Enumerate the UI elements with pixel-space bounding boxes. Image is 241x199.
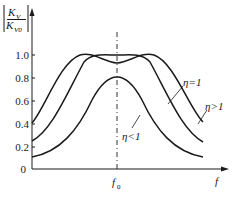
ylabel-den: K bbox=[5, 19, 14, 31]
label-eta-greater-1: η>1 bbox=[205, 100, 223, 112]
label-eta-equal-1: η=1 bbox=[183, 76, 201, 88]
ylabel-num: K bbox=[7, 6, 16, 18]
x-labels: f 0 f bbox=[112, 175, 220, 191]
svg-text:0.2: 0.2 bbox=[15, 141, 29, 153]
f0-sub: 0 bbox=[117, 183, 121, 191]
label-eta-less-1: η<1 bbox=[122, 130, 140, 142]
curve-eta-less-1 bbox=[32, 77, 203, 157]
svg-text:0.4: 0.4 bbox=[15, 118, 29, 130]
svg-text:1.0: 1.0 bbox=[15, 49, 29, 61]
y-axis-label: K V K V0 bbox=[4, 5, 28, 34]
x-axis-arrow-icon bbox=[221, 167, 229, 172]
svg-text:0.8: 0.8 bbox=[15, 72, 29, 84]
y-axis-arrow-icon bbox=[30, 8, 35, 16]
axes bbox=[30, 8, 230, 172]
svg-text:0: 0 bbox=[21, 163, 27, 175]
x-axis-label: f bbox=[215, 175, 220, 187]
svg-text:0.6: 0.6 bbox=[15, 95, 29, 107]
curve-eta-equal-1 bbox=[32, 55, 203, 142]
annotations: η=1 η>1 η<1 bbox=[122, 76, 223, 142]
resonance-chart: K V K V0 0 0.2 0.4 0.6 0.8 1.0 η=1 η> bbox=[0, 0, 241, 199]
ylabel-den-sub: V0 bbox=[14, 26, 22, 34]
